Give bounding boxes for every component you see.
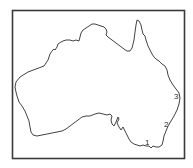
map-label-2: 2 — [164, 121, 168, 129]
australia-map — [0, 0, 193, 168]
australia-coastline — [15, 20, 180, 148]
map-label-1: 1 — [145, 139, 149, 147]
map-label-3: 3 — [174, 93, 178, 101]
